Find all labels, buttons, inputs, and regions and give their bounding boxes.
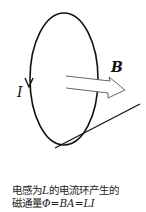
current-label: I [16,84,23,100]
field-label: B [110,59,123,75]
figure-caption: 电感为L的电流环产生的 磁通量Φ=BA=LI [12,184,146,210]
caption-line-2: 磁通量Φ=BA=LI [12,197,146,210]
current-direction-arrow-icon [25,78,33,87]
surface-line [55,104,140,148]
caption-line-1: 电感为L的电流环产生的 [12,184,146,197]
magnetic-field-arrow-icon [66,76,125,98]
current-loop-diagram: I B [0,0,146,180]
